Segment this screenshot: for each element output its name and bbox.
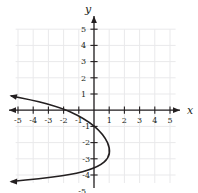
x-tick-label-1: 1 [107,116,112,125]
graph-figure: -5 -4 -3 -2 -1 1 2 3 4 5 5 4 3 2 1 -1 -2… [0,0,198,193]
y-tick-label-minus1: -1 [82,122,90,131]
y-axis-label: y [84,3,92,16]
y-tick-label-minus2: -2 [82,138,90,147]
x-tick-label-minus2: -2 [60,116,68,125]
y-tick-label-3: 3 [81,57,86,66]
coordinate-plane-svg: -5 -4 -3 -2 -1 1 2 3 4 5 5 4 3 2 1 -1 -2… [0,0,198,193]
y-axis [91,16,97,188]
x-tick-label-minus3: -3 [45,116,53,125]
curve-arrow-lower [10,179,18,185]
x-tick-label-2: 2 [122,116,127,125]
y-tick-label-2: 2 [81,74,86,83]
x-tick-label-minus4: -4 [29,116,37,125]
x-tick-label-4: 4 [152,116,157,125]
x-axis-label: x [187,104,194,117]
y-tick-label-5: 5 [81,25,86,34]
x-tick-label-5: 5 [167,116,172,125]
y-tick-label-minus5: -5 [78,187,86,193]
x-tick-label-3: 3 [137,116,142,125]
grid-lines [16,29,176,183]
curve-arrow-upper [10,94,18,100]
y-tick-label-minus3: -3 [82,155,90,164]
y-tick-label-4: 4 [81,41,86,50]
y-tick-label-1: 1 [81,90,86,99]
x-tick-label-minus5: -5 [14,116,22,125]
